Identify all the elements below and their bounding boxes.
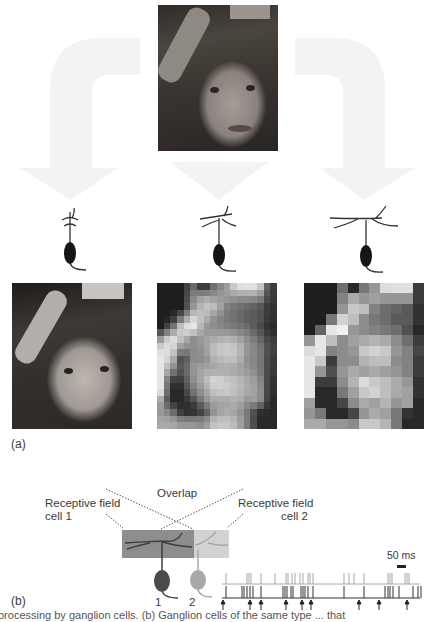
cell1-number: 1 <box>155 596 161 609</box>
receptive-field-cell1-label-line1: Receptive field <box>45 497 120 510</box>
receptive-field-cell2-label-line2: cell 2 <box>281 510 308 523</box>
receptive-field-cell2-label-line1: Receptive field <box>238 497 313 510</box>
caption-fragment: processing by ganglion cells. (b) Gangli… <box>0 609 345 622</box>
scale-bar-label: 50 ms <box>387 549 416 562</box>
overlap-label: Overlap <box>157 487 197 500</box>
panel-b-label: (b) <box>11 595 26 608</box>
cell2-number: 2 <box>189 596 195 609</box>
receptive-field-cell1-label-line2: cell 1 <box>45 510 72 523</box>
